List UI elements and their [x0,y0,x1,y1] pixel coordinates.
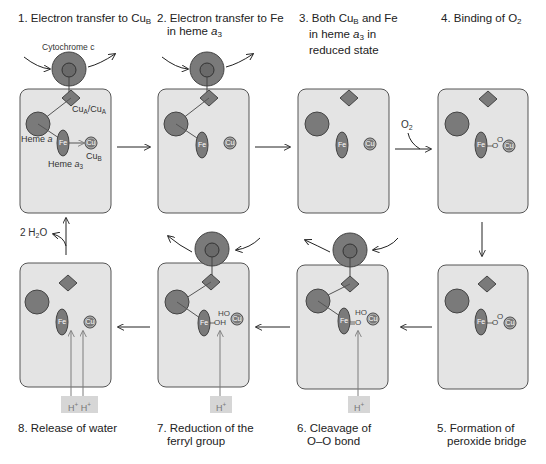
cu-label: Cu [364,140,376,147]
heme-a3-label: Heme a3 [48,159,83,170]
step-3-label: 3. Both CuB and Fe in heme a3 in reduced… [299,12,398,57]
cu-label: Cu [84,318,96,325]
step-2-panel [158,52,253,213]
step-7-panel [158,232,260,396]
step-8-panel [20,263,111,396]
step-6-label: 6. Cleavage of O–O bond [297,422,371,448]
hydroxyl-label: HO [218,309,230,318]
step-7-label: 7. Reduction of the ferryl group [157,422,254,448]
fe-label: Fe [57,139,69,146]
cytochrome-c-label: Cytochrome c [42,42,94,52]
hydroxyl-label: HO [355,308,367,317]
heme-a-icon [445,112,469,136]
fe-label: Fe [196,141,208,148]
heme-a-icon [305,112,329,136]
heme-a-icon [445,289,469,313]
step-2-label: 2. Electron transfer to Fe in heme a3 [157,12,284,41]
cu-label: Cu [367,315,379,322]
o2-in-arrow [408,133,420,149]
diagram-canvas [0,0,546,464]
step-5-label: 5. Formation of peroxide bridge [437,422,526,448]
fe-label: Fe [475,141,487,148]
fe-label: Fe [198,319,210,326]
heme-a-icon [25,290,49,314]
fe-label: Fe [338,317,350,324]
fe-label: Fe [475,318,487,325]
proton-input-box: H+ [210,396,232,413]
water-output-label: 2 H2O [20,227,47,239]
cu-label: Cu [224,139,236,146]
step-5-panel [438,265,528,389]
water-out-arrow [53,234,66,246]
cu-label: Cu [504,319,516,326]
cub-label: CuB [86,151,102,162]
step-6-panel [297,233,398,396]
cu-label: Cu [503,142,515,149]
step-1-label: 1. Electron transfer to CuB [18,12,151,28]
step-3-panel [298,89,389,213]
cua-label: CuA/CuA [72,104,106,115]
oxygen-atom-label: O [497,312,503,321]
step-4-label: 4. Binding of O2 [441,12,522,28]
oxygen-atom-label: O [497,135,503,144]
proton-input-box: H+ H+ [61,396,98,413]
proton-input-box: H+ [348,396,370,413]
step-8-label: 8. Release of water [18,422,117,435]
cytochrome-oxidase-cycle-diagram: 1. Electron transfer to CuB 2. Electron … [0,0,546,464]
o2-input-label: O2 [401,119,413,131]
heme-a-label: Heme a [21,134,53,144]
hydroxyl-label: OH [214,318,226,327]
cu-label: Cu [231,315,243,322]
cu-label: Cu [85,139,97,146]
step-1-panel [20,52,115,213]
ferryl-oxygen-label: O [355,318,361,327]
step-4-panel [438,89,528,213]
fe-label: Fe [56,318,68,325]
fe-label: Fe [336,141,348,148]
